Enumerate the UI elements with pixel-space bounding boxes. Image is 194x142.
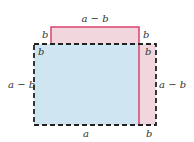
label-left-side: a − b: [8, 79, 35, 90]
label-inner-left-b: b: [38, 46, 44, 57]
label-bottom-right-b: b: [146, 128, 152, 139]
pink-top-strip: [51, 27, 139, 44]
label-top-right-b: b: [143, 29, 149, 40]
blue-region: [34, 44, 139, 125]
label-top: a − b: [81, 13, 108, 24]
label-right-side: a − b: [159, 79, 186, 90]
label-bottom: a: [83, 128, 89, 139]
label-inner-right-b: b: [145, 46, 151, 57]
label-top-left-b: b: [42, 29, 48, 40]
square-difference-diagram: a − b b b b b a − b a − b a b: [0, 0, 194, 142]
